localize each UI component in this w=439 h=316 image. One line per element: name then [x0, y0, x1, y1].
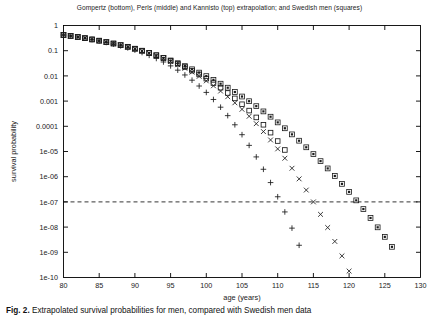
figure-caption: Fig. 2. Extrapolated survival probabilit…: [6, 306, 436, 316]
data-point-marker: [225, 113, 231, 119]
data-point-marker: [182, 72, 188, 78]
data-point-marker: [254, 115, 259, 120]
y-tick-label: 1e-09: [40, 248, 58, 257]
data-point-marker: [297, 138, 302, 143]
data-point-marker: [347, 269, 352, 274]
data-point-marker: [282, 126, 287, 131]
figure-caption-text: Extrapolated survival probabilities for …: [32, 306, 311, 315]
data-point-marker: [261, 166, 267, 172]
data-point-marker: [296, 242, 302, 248]
x-tick-label: 80: [60, 281, 68, 290]
x-tick-label: 85: [95, 281, 103, 290]
plot-frame: [64, 26, 421, 278]
x-axis-title: age (years): [223, 293, 260, 302]
data-point-marker: [232, 122, 238, 128]
data-point-marker: [275, 146, 280, 151]
data-point-marker: [240, 102, 245, 107]
data-point-marker: [225, 85, 230, 90]
data-point-marker: [218, 89, 223, 94]
data-point-marker: [325, 166, 330, 171]
data-point-marker: [318, 159, 323, 164]
data-point-marker: [340, 253, 345, 258]
y-tick-label: 1e-07: [40, 198, 58, 207]
data-point-marker: [240, 107, 245, 112]
data-point-marker: [232, 100, 237, 105]
y-tick-label: 0.01: [44, 72, 58, 81]
y-axis-ticks: 10.10.010.0010.00011e-051e-061e-071e-081…: [36, 21, 420, 282]
data-point-marker: [253, 154, 259, 160]
y-tick-label: 0.0001: [36, 122, 58, 131]
y-tick-label: 1: [54, 21, 58, 30]
data-point-marker: [247, 99, 252, 104]
data-point-marker: [290, 166, 295, 171]
figure-container: Gompertz (bottom), Perls (middle) and Ka…: [0, 0, 439, 316]
data-point-marker: [261, 109, 266, 114]
data-point-marker: [240, 94, 245, 99]
data-point-marker: [232, 90, 237, 95]
data-point-marker: [196, 83, 202, 89]
data-point-marker: [247, 108, 252, 113]
survival-probability-scatter-plot: 80859095100105110115120125130 10.10.010.…: [0, 0, 439, 316]
data-point-marker: [218, 104, 224, 110]
x-tick-label: 100: [200, 281, 212, 290]
y-tick-label: 1e-06: [40, 172, 58, 181]
data-point-marker: [239, 132, 245, 138]
data-point-marker: [297, 176, 302, 181]
x-tick-label: 90: [131, 281, 139, 290]
data-point-marker: [268, 114, 273, 119]
data-point-marker: [304, 188, 309, 193]
data-point-marker: [283, 148, 288, 153]
data-point-marker: [382, 234, 387, 239]
data-point-marker: [375, 225, 380, 230]
data-point-marker: [233, 96, 238, 101]
data-point-marker: [325, 225, 330, 230]
data-point-marker: [211, 83, 216, 88]
y-tick-label: 1e-05: [40, 147, 58, 156]
data-point-marker: [254, 121, 259, 126]
data-point-marker: [347, 189, 352, 194]
data-point-marker: [211, 77, 216, 82]
data-point-marker: [340, 181, 345, 186]
series-0: [61, 33, 287, 153]
data-point-marker: [275, 139, 280, 144]
data-point-marker: [190, 70, 195, 75]
series-3: [61, 32, 302, 248]
figure-number: Fig. 2.: [6, 306, 30, 315]
data-point-marker: [289, 225, 295, 231]
data-point-marker: [261, 129, 266, 134]
data-point-marker: [254, 104, 259, 109]
x-tick-label: 130: [415, 281, 427, 290]
data-point-marker: [368, 216, 373, 221]
data-point-marker: [175, 67, 181, 73]
data-point-marker: [204, 90, 210, 96]
y-tick-label: 1e-10: [40, 273, 58, 282]
data-point-marker: [318, 212, 323, 217]
y-axis-title: survival probability: [9, 121, 18, 182]
x-tick-label: 95: [167, 281, 175, 290]
data-point-marker: [268, 138, 273, 143]
x-tick-label: 105: [236, 281, 248, 290]
x-tick-label: 120: [343, 281, 355, 290]
data-point-marker: [246, 143, 252, 149]
data-point-marker: [261, 122, 266, 127]
y-tick-label: 1e-08: [40, 223, 58, 232]
data-point-marker: [304, 145, 309, 150]
data-point-marker: [268, 130, 273, 135]
x-tick-label: 110: [272, 281, 283, 290]
data-point-marker: [332, 174, 337, 179]
series-2: [61, 33, 351, 274]
data-point-marker: [390, 244, 395, 249]
data-point-marker: [268, 180, 274, 186]
data-point-marker: [211, 97, 217, 103]
data-point-marker: [275, 120, 280, 125]
data-series-layer: [61, 32, 395, 273]
data-point-marker: [189, 77, 195, 83]
data-point-marker: [247, 114, 252, 119]
series-1: [61, 33, 394, 250]
data-point-marker: [361, 207, 366, 212]
y-tick-label: 0.1: [48, 46, 58, 55]
data-point-marker: [311, 152, 316, 157]
data-point-marker: [290, 132, 295, 137]
x-tick-label: 125: [379, 281, 391, 290]
data-point-marker: [332, 239, 337, 244]
